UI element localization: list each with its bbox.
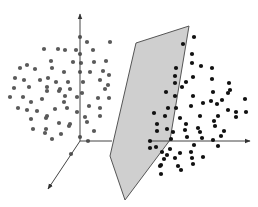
data-point	[85, 120, 89, 124]
data-point	[191, 75, 195, 79]
data-point	[59, 132, 63, 136]
data-point	[176, 164, 180, 168]
data-point	[85, 40, 89, 44]
data-point	[220, 98, 224, 102]
data-point	[44, 127, 48, 131]
data-point	[173, 156, 177, 160]
data-point	[244, 110, 248, 114]
data-point	[174, 106, 178, 110]
data-point	[57, 89, 61, 93]
data-point	[211, 90, 215, 94]
data-point	[163, 114, 167, 118]
data-point	[81, 80, 85, 84]
data-point	[27, 85, 31, 89]
data-point	[75, 110, 79, 114]
data-point	[92, 129, 96, 133]
data-point	[152, 111, 156, 115]
data-point	[12, 86, 16, 90]
data-point	[63, 94, 67, 98]
data-point	[155, 122, 159, 126]
data-point	[168, 147, 172, 151]
data-point	[164, 90, 168, 94]
data-point	[67, 124, 71, 128]
data-point	[190, 156, 194, 160]
data-point	[173, 81, 177, 85]
data-point	[50, 137, 54, 141]
diagram-canvas	[0, 0, 258, 207]
data-point	[65, 106, 69, 110]
data-point	[103, 87, 107, 91]
data-point	[66, 80, 70, 84]
data-point	[171, 130, 175, 134]
data-point	[42, 47, 46, 51]
data-point	[96, 96, 100, 100]
data-point	[185, 135, 189, 139]
data-point	[8, 95, 12, 99]
data-point	[178, 116, 182, 120]
data-point	[174, 66, 178, 70]
data-point	[49, 59, 53, 63]
data-point	[106, 83, 110, 87]
data-point	[54, 80, 58, 84]
data-point	[192, 143, 196, 147]
data-point	[13, 76, 17, 80]
data-point	[25, 63, 29, 67]
data-point	[165, 153, 169, 157]
data-point	[107, 96, 111, 100]
data-point	[234, 110, 238, 114]
data-point	[40, 97, 44, 101]
data-point	[56, 47, 60, 51]
data-point	[88, 70, 92, 74]
data-point	[169, 137, 173, 141]
data-point	[211, 138, 215, 142]
data-point	[46, 76, 50, 80]
data-point	[154, 145, 158, 149]
data-point	[173, 74, 177, 78]
data-point	[199, 64, 203, 68]
data-point	[98, 106, 102, 110]
data-point	[189, 150, 193, 154]
data-point	[92, 60, 96, 64]
data-point	[74, 48, 78, 52]
data-point	[44, 116, 48, 120]
separating-hyperplane	[110, 26, 189, 200]
data-point	[29, 100, 33, 104]
data-point	[228, 88, 232, 92]
data-point	[108, 40, 112, 44]
data-point	[31, 127, 35, 131]
data-point	[43, 131, 47, 135]
data-point	[158, 164, 162, 168]
data-point	[201, 101, 205, 105]
data-point	[209, 99, 213, 103]
data-point	[98, 114, 102, 118]
data-point	[215, 102, 219, 106]
data-point	[101, 69, 105, 73]
data-point	[210, 66, 214, 70]
data-point	[198, 114, 202, 118]
data-point	[62, 70, 66, 74]
data-point	[25, 108, 29, 112]
data-point	[87, 104, 91, 108]
data-point	[212, 119, 216, 123]
data-point	[45, 89, 49, 93]
data-point	[222, 129, 226, 133]
data-point	[216, 114, 220, 118]
data-point	[160, 150, 164, 154]
data-point	[227, 81, 231, 85]
data-point	[216, 144, 220, 148]
data-point	[184, 122, 188, 126]
data-point	[243, 97, 247, 101]
data-point	[98, 78, 102, 82]
data-point	[83, 115, 87, 119]
data-point	[159, 172, 163, 176]
data-point	[173, 94, 177, 98]
data-point	[198, 130, 202, 134]
data-point	[166, 106, 170, 110]
data-point	[196, 126, 200, 130]
data-point	[210, 77, 214, 81]
data-point	[183, 128, 187, 132]
data-point	[75, 95, 79, 99]
data-point	[189, 104, 193, 108]
data-point	[162, 157, 166, 161]
data-point	[22, 78, 26, 82]
